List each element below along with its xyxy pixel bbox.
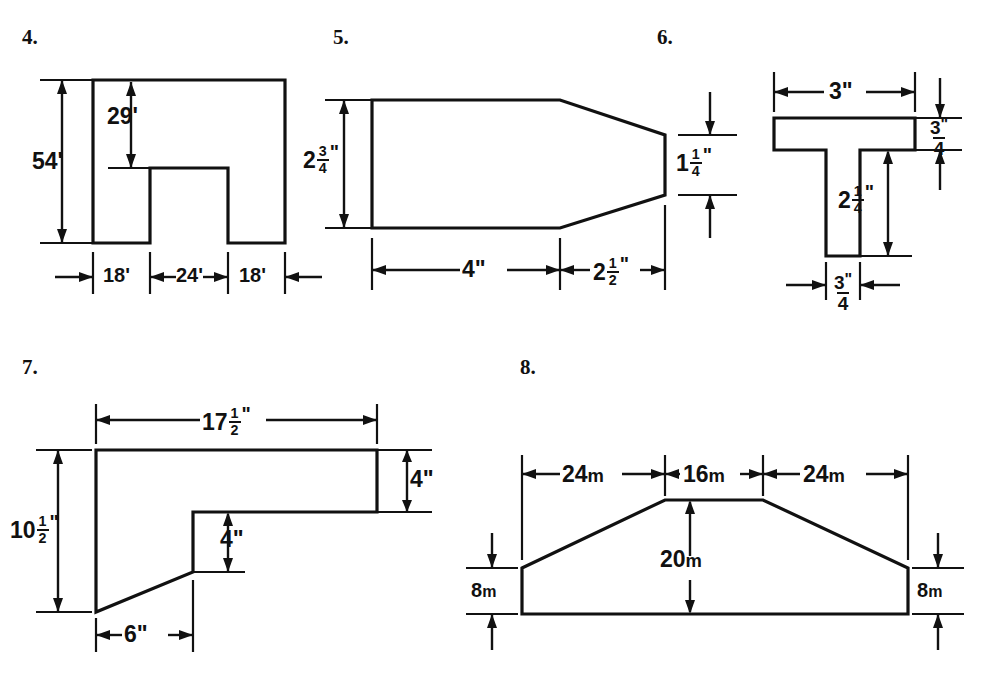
label-left-side-8m: 8m bbox=[471, 580, 496, 600]
label-right-side-8m: 8m bbox=[917, 580, 942, 600]
total-height-unit: m bbox=[686, 550, 702, 571]
arrow-right-24m-left bbox=[651, 469, 665, 479]
arrow-left-24m-right bbox=[763, 469, 777, 479]
total-height-value: 20 bbox=[660, 546, 686, 572]
arrow-up-8m-left bbox=[487, 614, 497, 628]
right-run-value: 24 bbox=[803, 461, 829, 487]
arrow-left-16m bbox=[665, 469, 679, 479]
arrow-right-24m-right bbox=[894, 469, 908, 479]
label-total-height-20m: 20m bbox=[660, 548, 702, 571]
label-right-run-24m: 24m bbox=[803, 463, 845, 486]
left-side-value: 8 bbox=[471, 579, 482, 601]
left-run-value: 24 bbox=[562, 461, 588, 487]
right-run-unit: m bbox=[829, 465, 845, 486]
arrow-right-16m bbox=[749, 469, 763, 479]
top-width-value: 16 bbox=[683, 461, 709, 487]
arrow-left-24m-left bbox=[522, 469, 536, 479]
left-side-unit: m bbox=[482, 583, 496, 600]
trapezoid-embankment-outline bbox=[522, 500, 908, 614]
right-side-unit: m bbox=[928, 583, 942, 600]
arrow-down-8m-right bbox=[933, 554, 943, 568]
arrow-down-8m-left bbox=[487, 554, 497, 568]
right-side-value: 8 bbox=[917, 579, 928, 601]
left-run-unit: m bbox=[588, 465, 604, 486]
label-top-width-16m: 16m bbox=[683, 463, 725, 486]
figure-8-drawing bbox=[0, 0, 995, 683]
arrow-up-8m-right bbox=[933, 614, 943, 628]
label-left-run-24m: 24m bbox=[562, 463, 604, 486]
top-width-unit-m: m bbox=[709, 465, 725, 486]
